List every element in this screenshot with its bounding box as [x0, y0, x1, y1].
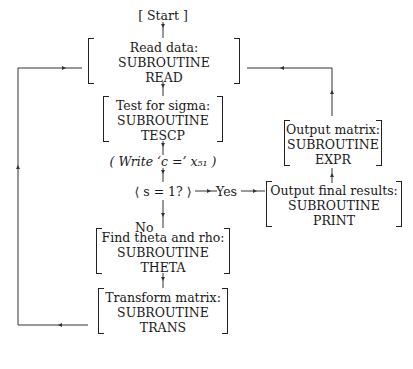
- node-name: TESCP: [103, 128, 223, 143]
- find-theta-node: Find theta and rho: SUBROUTINE THETA: [96, 228, 230, 274]
- node-subroutine: SUBROUTINE: [96, 245, 230, 260]
- node-name: THETA: [96, 260, 230, 275]
- node-title: Test for sigma:: [103, 98, 223, 113]
- node-title: Transform matrix:: [98, 290, 228, 305]
- node-title: Output matrix:: [284, 122, 382, 137]
- write-node: ( Write ‘c =’ x₅₁ ): [98, 154, 228, 169]
- node-name: TRANS: [98, 320, 228, 335]
- node-title: Find theta and rho:: [96, 230, 230, 245]
- node-name: EXPR: [284, 152, 382, 167]
- output-final-results-node: Output final results: SUBROUTINE PRINT: [266, 181, 402, 227]
- output-matrix-node: Output matrix: SUBROUTINE EXPR: [284, 120, 382, 166]
- node-subroutine: SUBROUTINE: [103, 113, 223, 128]
- read-data-node: Read data: SUBROUTINE READ: [88, 38, 240, 84]
- node-title: Read data:: [88, 40, 240, 55]
- decision-node: ⟨ s = 1? ⟩: [125, 184, 201, 199]
- node-name: PRINT: [266, 213, 402, 228]
- yes-label: Yes: [216, 184, 237, 199]
- transform-matrix-node: Transform matrix: SUBROUTINE TRANS: [98, 288, 228, 334]
- node-subroutine: SUBROUTINE: [284, 137, 382, 152]
- node-subroutine: SUBROUTINE: [98, 305, 228, 320]
- test-sigma-node: Test for sigma: SUBROUTINE TESCP: [103, 96, 223, 142]
- node-subroutine: SUBROUTINE: [266, 198, 402, 213]
- node-name: READ: [88, 70, 240, 85]
- node-title: Output final results:: [266, 183, 402, 198]
- node-subroutine: SUBROUTINE: [88, 55, 240, 70]
- start-node: [ Start ]: [118, 8, 208, 23]
